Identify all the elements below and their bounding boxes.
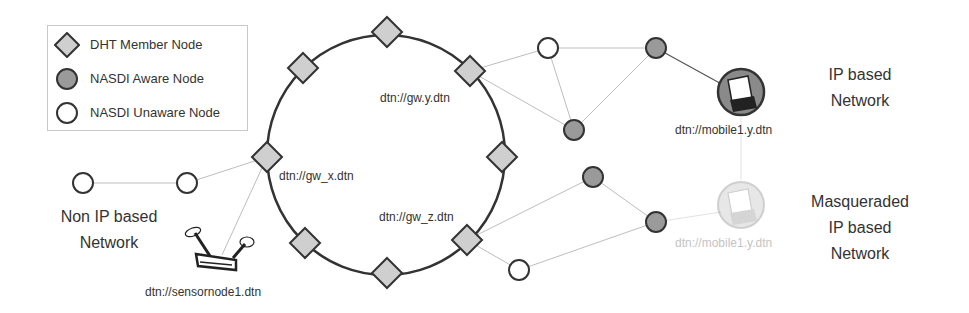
filled-circle-icon	[54, 66, 80, 92]
dht-node-bottom	[372, 258, 402, 288]
region-line: Network	[48, 230, 170, 256]
aware-node-2	[564, 120, 584, 140]
masq-network-label: Masqueraded IP based Network	[800, 189, 920, 267]
region-line: Network	[800, 241, 920, 267]
legend-label: DHT Member Node	[90, 37, 202, 52]
legend: DHT Member Node NASDI Aware Node NASDI U…	[47, 25, 248, 131]
sensor-node-icon	[184, 226, 254, 270]
mobile-node-label: dtn://mobile1.y.dtn	[675, 123, 772, 137]
mobile-node-icon	[718, 69, 764, 115]
ip-network-label: IP based Network	[815, 62, 905, 114]
legend-label: NASDI Aware Node	[90, 71, 204, 86]
gw-x-label: dtn://gw_x.dtn	[279, 169, 354, 183]
non-ip-network-label: Non IP based Network	[48, 204, 170, 256]
gw-z-label: dtn://gw_z.dtn	[379, 210, 454, 224]
aware-node-3	[583, 167, 603, 187]
dht-node-upper-left	[288, 53, 318, 83]
region-line: Network	[815, 88, 905, 114]
legend-label: NASDI Unaware Node	[90, 105, 220, 120]
mobile-node-masq-icon	[718, 182, 764, 228]
dht-node-gw-x	[252, 142, 282, 172]
diamond-icon	[54, 32, 80, 58]
aware-node-4	[646, 212, 666, 232]
unaware-node-masq	[509, 260, 529, 280]
sensor-node-label: dtn://sensornode1.dtn	[145, 285, 261, 299]
unaware-node-ip	[538, 38, 558, 58]
region-line: Non IP based	[48, 204, 170, 230]
region-line: IP based	[815, 62, 905, 88]
dht-node-right	[487, 142, 517, 172]
unaware-node-nonip-1	[73, 173, 93, 193]
aware-node-1	[646, 38, 666, 58]
dht-node-top	[372, 17, 402, 47]
gw-y-label: dtn://gw.y.dtn	[380, 91, 450, 105]
region-line: Masqueraded	[800, 189, 920, 215]
unaware-node-nonip-2	[177, 173, 197, 193]
mobile-masq-label: dtn://mobile1.y.dtn	[675, 236, 772, 250]
region-line: IP based	[800, 215, 920, 241]
empty-circle-icon	[54, 100, 80, 126]
dht-member-nodes	[252, 17, 517, 288]
